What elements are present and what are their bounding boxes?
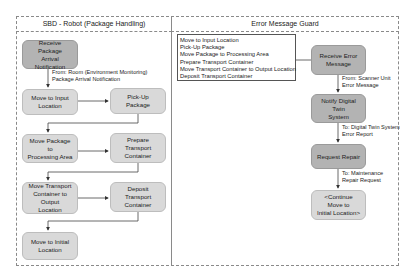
- node-label-line: Processing Area: [27, 153, 72, 160]
- note-line: Move to Input Location: [180, 37, 293, 44]
- note-line: Move Package to Processing Area: [180, 51, 293, 58]
- edge-label-maintenance-request: To: Maintenance Repair Request: [342, 170, 383, 184]
- node-label-line: Notify Digital Twin: [321, 97, 356, 112]
- note-line: Move Transport Container to Output Locat…: [180, 66, 293, 73]
- node-label-line: System: [328, 113, 349, 120]
- node-receive-package-arrival[interactable]: Receive PackageArrival Notification: [22, 40, 78, 69]
- node-request-repair[interactable]: Request Repair: [311, 144, 366, 169]
- edge-label-line: Package Arrival Notification: [52, 76, 147, 83]
- node-continue-move-to-initial[interactable]: <Continue Move toInitial Location>: [311, 190, 366, 220]
- node-notify-digital-twin[interactable]: Notify Digital TwinSystem: [311, 94, 366, 123]
- edge-label-line: To: Digital Twin System: [342, 124, 400, 131]
- edge-label-line: To: Maintenance: [342, 170, 383, 177]
- node-label-line: Request Repair: [317, 153, 360, 161]
- note-guarded-actions: Move to Input Location Pick-Up Package M…: [177, 34, 296, 81]
- node-label-line: Container: [125, 201, 152, 208]
- edge-label-room-notification: From: Room (Environment Monitoring) Pack…: [52, 69, 147, 83]
- node-label-line: Initial Location>: [317, 209, 360, 216]
- edge-label-line: From: Scanner Unit: [342, 75, 391, 82]
- node-deposit-transport-container[interactable]: Deposit TransportContainer: [110, 182, 166, 212]
- node-label-line: Location: [38, 246, 61, 253]
- edge-label-digital-twin-report: To: Digital Twin System Error Report: [342, 124, 400, 138]
- node-label-line: Move Package to: [30, 137, 71, 152]
- node-label-line: Deposit Transport: [125, 185, 151, 200]
- node-prepare-transport-container[interactable]: Prepare TransportContainer: [110, 133, 166, 163]
- node-label-line: Location: [38, 102, 61, 109]
- node-label-line: Message: [326, 60, 351, 67]
- note-line: Prepare Transport Container: [180, 59, 293, 66]
- node-label-line: Move to Input: [31, 94, 69, 101]
- node-receive-error-message[interactable]: Receive ErrorMessage: [311, 45, 366, 75]
- edge-label-scanner-error: From: Scanner Unit Error Message: [342, 75, 391, 89]
- edge-label-line: Repair Request: [342, 177, 383, 184]
- node-move-package-to-processing[interactable]: Move Package toProcessing Area: [22, 134, 78, 163]
- note-line: Pick-Up Package: [180, 44, 293, 51]
- node-label-line: Container: [125, 152, 152, 159]
- edge-label-line: Error Message: [342, 82, 391, 89]
- node-label-line: Receive Package: [38, 39, 62, 54]
- note-line: Deposit Transport Container: [180, 73, 293, 80]
- node-label-line: Location: [38, 206, 61, 213]
- node-label-line: Prepare Transport: [125, 136, 151, 151]
- node-label-line: Receive Error: [320, 52, 358, 59]
- node-label-line: Pick-Up Package: [115, 93, 161, 109]
- node-move-to-input-location[interactable]: Move to InputLocation: [22, 89, 78, 115]
- node-label-line: Move Transport: [29, 182, 72, 189]
- node-label-line: Container to Output: [33, 190, 67, 205]
- node-pick-up-package[interactable]: Pick-Up Package: [110, 88, 166, 114]
- node-label-line: <Continue Move to: [324, 193, 352, 208]
- edge-label-line: From: Room (Environment Monitoring): [52, 69, 147, 76]
- edge-label-line: Error Report: [342, 131, 400, 138]
- node-label-line: Move to Initial: [31, 238, 69, 245]
- node-move-container-to-output[interactable]: Move TransportContainer to OutputLocatio…: [22, 182, 78, 214]
- node-move-to-initial-location[interactable]: Move to InitialLocation: [22, 232, 78, 260]
- node-label-line: Arrival Notification: [35, 55, 66, 70]
